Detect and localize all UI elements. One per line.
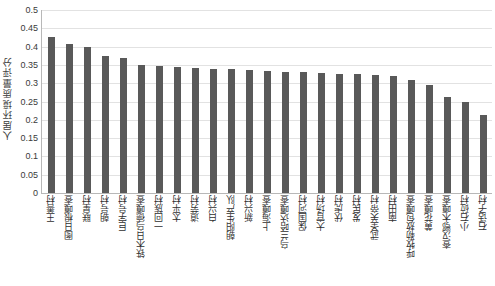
x-axis-tick-label: 黄花嘎查 — [424, 195, 433, 231]
x-axis-tick-label: 道劳村 — [190, 195, 199, 222]
x-axis-tick-label: 查汉鄂木嘎查 — [442, 195, 451, 249]
bar — [246, 70, 253, 193]
y-axis-tick-labels: 00.050.10.150.20.250.30.350.40.450.5 — [14, 0, 40, 196]
bar — [354, 74, 361, 193]
bar — [102, 56, 109, 193]
bar — [462, 102, 469, 194]
x-axis-tick-label: 呼牧勒敖包嘎查 — [406, 195, 415, 258]
x-axis-tick: 大官场村 — [315, 195, 326, 231]
y-axis-tick-label: 0.4 — [25, 42, 38, 51]
x-axis-tick: 查汉鄂木嘎查 — [441, 195, 452, 249]
bar — [138, 65, 145, 193]
x-axis-tick: 乌兰哈达嘎查 — [279, 195, 290, 249]
x-axis-tick-label: 保国河村 — [298, 195, 307, 231]
bar — [210, 69, 217, 193]
bar — [300, 72, 307, 193]
x-axis-tick-label: 联星村 — [82, 195, 91, 222]
bar — [264, 71, 271, 193]
y-axis-tick-label: 0.35 — [20, 60, 38, 69]
x-axis-tick-label: 白兴村 — [208, 195, 217, 222]
x-axis-tick: 伏虎村 — [333, 195, 344, 222]
bar — [444, 97, 451, 193]
y-axis-tick-label: 0.15 — [20, 134, 38, 143]
bar — [408, 80, 415, 193]
y-axis-title-label: 人居环境质量评分 — [3, 56, 13, 140]
y-axis-tick-label: 0.25 — [20, 97, 38, 106]
x-axis-tick-label: 武圣关帝村 — [370, 195, 379, 240]
bar — [318, 73, 325, 193]
x-axis-tick: 朝号村 — [99, 195, 110, 222]
x-axis-tick: 新兴村 — [243, 195, 254, 222]
x-axis-tick-label: 南田村 — [388, 195, 397, 222]
x-axis-tick: 武圣关帝村 — [369, 195, 380, 240]
bar — [174, 67, 181, 193]
x-axis-tick: 发民村 — [351, 195, 362, 222]
x-axis-tick: 呼牧勒敖包嘎查 — [405, 195, 416, 258]
x-axis-tick: 保国河村 — [297, 195, 308, 231]
bar — [156, 66, 163, 193]
y-axis-tick-label: 0.45 — [20, 24, 38, 33]
x-axis-tick-label: 图日根嘎查 — [64, 195, 73, 240]
x-axis-tick-labels: 王善村图日根嘎查联星村朝号村巨字号村铁木日乌德嘎查一回族村太平村道劳村白兴村朝阳… — [41, 195, 491, 286]
x-axis-tick: 联星村 — [81, 195, 92, 222]
x-axis-tick: 石话子村 — [477, 195, 488, 231]
bar — [120, 58, 127, 193]
y-axis-tick-label: 0.1 — [25, 152, 38, 161]
x-axis-tick: 朝阳生产队 — [225, 195, 236, 240]
x-axis-tick-label: 伏虎村 — [334, 195, 343, 222]
bar — [228, 69, 235, 193]
bar — [372, 75, 379, 193]
x-axis-tick: 道劳村 — [189, 195, 200, 222]
bar — [192, 68, 199, 193]
bar — [282, 72, 289, 194]
x-axis-tick-label: 王善村 — [46, 195, 55, 222]
y-axis-tick-label: 0 — [33, 189, 38, 198]
x-axis-tick: 王善村 — [45, 195, 56, 222]
x-axis-tick: 巨字号村 — [117, 195, 128, 231]
x-axis-tick: 铁木日乌德嘎查 — [135, 195, 146, 258]
bar — [390, 76, 397, 193]
x-axis-tick-label: 小石砬村 — [460, 195, 469, 231]
plot-area — [41, 10, 492, 194]
x-axis-tick: 图日根嘎查 — [63, 195, 74, 240]
y-axis-tick-label: 0.05 — [20, 170, 38, 179]
bars-layer — [42, 10, 492, 193]
bar — [66, 44, 73, 193]
x-axis-tick: 白兴村 — [207, 195, 218, 222]
x-axis-tick: 南田村 — [387, 195, 398, 222]
x-axis-tick-label: 大官场村 — [316, 195, 325, 231]
x-axis-tick-label: 上海嘎查 — [262, 195, 271, 231]
bar — [48, 37, 55, 193]
x-axis-tick-label: 朝阳生产队 — [226, 195, 235, 240]
y-axis-tick-label: 0.5 — [25, 6, 38, 15]
bar — [84, 47, 91, 193]
x-axis-tick-label: 一回族村 — [154, 195, 163, 231]
y-axis-tick-label: 0.2 — [25, 115, 38, 124]
x-axis-tick: 上海嘎查 — [261, 195, 272, 231]
x-axis-tick: 小石砬村 — [459, 195, 470, 231]
bar — [336, 74, 343, 193]
bar — [426, 85, 433, 193]
x-axis-tick-label: 发民村 — [352, 195, 361, 222]
x-axis-tick-label: 巨字号村 — [118, 195, 127, 231]
bar — [480, 115, 487, 193]
x-axis-tick-label: 新兴村 — [244, 195, 253, 222]
bar-chart: 人居环境质量评分 00.050.10.150.20.250.30.350.40.… — [0, 0, 495, 286]
x-axis-tick-label: 太平村 — [172, 195, 181, 222]
x-axis-tick-label: 石话子村 — [478, 195, 487, 231]
x-axis-tick: 一回族村 — [153, 195, 164, 231]
x-axis-tick-label: 朝号村 — [100, 195, 109, 222]
x-axis-tick-label: 乌兰哈达嘎查 — [280, 195, 289, 249]
x-axis-tick: 黄花嘎查 — [423, 195, 434, 231]
y-axis-tick-label: 0.3 — [25, 79, 38, 88]
x-axis-tick-label: 铁木日乌德嘎查 — [136, 195, 145, 258]
x-axis-tick: 太平村 — [171, 195, 182, 222]
